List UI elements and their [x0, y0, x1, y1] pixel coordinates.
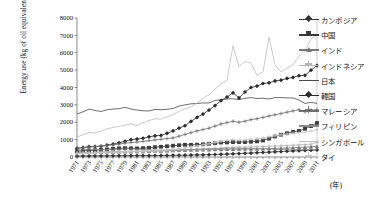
legend-item-5: 日本 — [299, 73, 385, 88]
svg-text:2000: 2000 — [60, 118, 74, 125]
svg-text:1981: 1981 — [127, 159, 140, 174]
legend-item-8: フィリピン — [299, 118, 385, 133]
legend-swatch-icon — [299, 106, 319, 116]
svg-text:1973: 1973 — [79, 158, 93, 173]
svg-text:5000: 5000 — [60, 66, 74, 73]
legend-swatch-icon — [299, 60, 319, 70]
y-axis-title: Energy use (kg of oil equivalent per cap… — [20, 0, 34, 99]
plot-area: 0100020003000400050006000700080001971197… — [45, 16, 285, 155]
legend-item-label: 韓国 — [321, 90, 335, 101]
legend-item-label: マレーシア — [321, 105, 357, 116]
svg-text:1999: 1999 — [235, 158, 249, 173]
svg-text:6000: 6000 — [60, 49, 74, 56]
legend-item-label: シンガポール — [321, 136, 364, 147]
legend-swatch-icon — [299, 45, 319, 55]
svg-text:1993: 1993 — [199, 158, 213, 173]
legend-item-label: タイ — [321, 151, 335, 162]
legend-swatch-icon — [299, 91, 319, 101]
svg-text:1995: 1995 — [211, 158, 225, 173]
legend-item-2: 中国 — [299, 27, 385, 42]
legend-swatch-icon — [299, 121, 319, 131]
svg-text:1989: 1989 — [175, 158, 189, 173]
legend-swatch-icon — [299, 151, 319, 161]
legend-item-1: カンボジア — [299, 12, 385, 27]
svg-text:3000: 3000 — [60, 101, 74, 108]
svg-text:1977: 1977 — [103, 158, 117, 173]
svg-text:1991: 1991 — [187, 159, 200, 174]
legend-item-label: インドネシア — [321, 60, 364, 71]
legend-item-3: インド — [299, 42, 385, 57]
svg-text:1983: 1983 — [139, 158, 153, 173]
legend-item-6: 韓国 — [299, 88, 385, 103]
chart-legend: カンボジア中国インドインドネシア日本韓国マレーシアフィリピンシンガポールタイ — [299, 12, 385, 164]
legend-item-7: マレーシア — [299, 103, 385, 118]
x-axis-unit-label: (年) — [330, 179, 342, 190]
svg-text:2003: 2003 — [259, 158, 273, 173]
svg-text:1987: 1987 — [163, 158, 177, 173]
legend-swatch-icon — [299, 75, 319, 85]
chart-figure: Energy use (kg of oil equivalent per cap… — [0, 0, 385, 202]
legend-item-4: インドネシア — [299, 58, 385, 73]
svg-text:1000: 1000 — [60, 136, 74, 143]
svg-text:8000: 8000 — [60, 16, 74, 21]
svg-text:2005: 2005 — [271, 158, 285, 173]
legend-item-10: タイ — [299, 149, 385, 164]
svg-text:1997: 1997 — [223, 158, 237, 173]
svg-text:1979: 1979 — [115, 158, 129, 173]
svg-text:4000: 4000 — [60, 84, 74, 91]
legend-item-label: インド — [321, 44, 343, 55]
legend-item-label: フィリピン — [321, 120, 357, 131]
legend-swatch-icon — [299, 136, 319, 146]
svg-text:1975: 1975 — [91, 158, 105, 173]
svg-text:7000: 7000 — [60, 32, 74, 39]
svg-text:2007: 2007 — [283, 158, 297, 173]
legend-swatch-icon — [299, 30, 319, 40]
svg-text:1971: 1971 — [67, 159, 80, 174]
svg-text:2001: 2001 — [247, 159, 260, 174]
legend-swatch-icon — [299, 15, 319, 25]
legend-item-label: カンボジア — [321, 14, 357, 25]
legend-item-label: 中国 — [321, 29, 335, 40]
svg-text:0: 0 — [70, 153, 74, 160]
svg-text:1985: 1985 — [151, 158, 165, 173]
legend-item-label: 日本 — [321, 75, 335, 86]
legend-item-9: シンガポール — [299, 134, 385, 149]
